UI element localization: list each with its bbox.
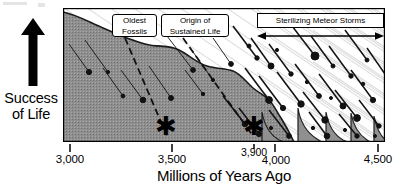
y-axis-label-line1: Success: [4, 90, 57, 106]
figure-root: Success of Life: [0, 0, 402, 189]
x-tick-label-3500: 3,500: [152, 153, 192, 165]
annotation-origin-line2: Sustained Life: [162, 27, 228, 38]
scan-artifact: [3, 2, 27, 5]
x-tick-label-3000: 3,000: [50, 153, 90, 165]
x-tick-label-4000: 4,000: [256, 154, 296, 166]
x-axis-title: Millions of Years Ago: [63, 167, 385, 184]
annotation-oldest-fossils-line2: Fossils: [113, 27, 156, 38]
annotation-origin-line1: Origin of: [162, 16, 228, 27]
y-axis-label: Success of Life: [0, 90, 62, 122]
annotation-sterilizing-meteor-storms: Sterilizing Meteor Storms: [257, 13, 384, 28]
asterisk-glyph: ✱: [243, 111, 265, 141]
annotation-sterilizing-label: Sterilizing Meteor Storms: [276, 16, 365, 25]
meteor-storm-span-arrow: [257, 28, 384, 40]
mass-extinction-marker-1: ✱: [155, 113, 177, 139]
y-axis-label-line2: of Life: [0, 106, 62, 122]
annotation-origin-of-sustained-life: Origin of Sustained Life: [161, 14, 229, 37]
scan-artifact: [38, 3, 45, 7]
annotation-oldest-fossils-line1: Oldest: [113, 16, 156, 27]
annotation-oldest-fossils: Oldest Fossils: [112, 14, 157, 37]
up-arrow-icon: [20, 18, 46, 86]
asterisk-glyph: ✱: [155, 111, 177, 141]
x-tick-label-4500: 4,500: [358, 153, 398, 165]
mass-extinction-marker-2: ✱: [243, 113, 265, 139]
